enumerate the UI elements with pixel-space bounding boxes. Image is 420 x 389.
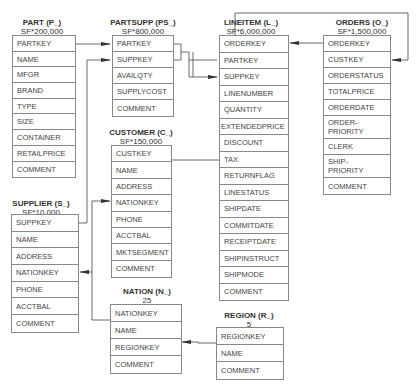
field-row: ORDERKEY (324, 36, 390, 52)
field-row: CUSTKEY (324, 52, 390, 68)
field-row: NAME (111, 322, 181, 339)
field-row: ORDERDATE (324, 100, 390, 116)
field-row: SHIPMODE (220, 267, 288, 284)
field-row: PARTKEY (220, 53, 288, 70)
table-title: REGION (R_) (224, 311, 273, 320)
field-row: ACCTBAL (112, 228, 171, 244)
field-row: RETURNFLAG (220, 168, 288, 185)
field-row: ORDERSTATUS (324, 68, 390, 84)
field-row: NAME (217, 345, 283, 362)
table-lineitem-fields: ORDERKEY PARTKEY SUPPKEY LINENUMBER QUAN… (219, 35, 289, 301)
field-row: ADDRESS (12, 248, 78, 265)
field-row: COMMENT (12, 315, 78, 332)
field-row: AVAILQTY (113, 68, 173, 84)
field-row: SHIP- PRIORITY (324, 155, 390, 178)
table-part-header: PART (P_) SF*200,000 (10, 18, 74, 36)
field-row: CONTAINER (13, 130, 75, 146)
table-title: LINEITEM (L_) (224, 18, 278, 27)
field-row: QUANTITY (220, 102, 288, 119)
field-row: ACCTBAL (12, 298, 78, 315)
field-row: PARTKEY (113, 36, 173, 52)
field-row: NAME (13, 52, 75, 68)
field-row: LINENUMBER (220, 86, 288, 103)
table-title: ORDERS (O_) (336, 18, 388, 27)
table-lineitem-header: LINEITEM (L_) SF*6,000,000 (215, 18, 287, 36)
field-row: PARTKEY (13, 36, 75, 52)
field-row: MKTSEGMENT (112, 244, 171, 260)
field-row: PHONE (112, 212, 171, 228)
field-row: NATIONKEY (111, 305, 181, 322)
field-row: NAME (112, 162, 171, 178)
field-row: SUPPKEY (113, 52, 173, 68)
field-row: TAX (220, 152, 288, 169)
field-row: RETAILPRICE (13, 146, 75, 162)
field-row: COMMENT (220, 284, 288, 301)
table-nation-header: NATION (N_) 25 (114, 287, 180, 305)
table-region-fields: REGIONKEY NAME COMMENT (216, 327, 284, 380)
field-row: SUPPLYCOST (113, 84, 173, 100)
table-nation-fields: NATIONKEY NAME REGIONKEY COMMENT (110, 304, 182, 374)
field-row: RECEIPTDATE (220, 234, 288, 251)
field-row: SIZE (13, 114, 75, 130)
field-row: EXTENDEDPRICE (220, 119, 288, 136)
table-title: NATION (N_) (123, 287, 171, 296)
field-row: PHONE (12, 282, 78, 299)
field-row: DISCOUNT (220, 135, 288, 152)
field-row: COMMENT (217, 362, 283, 379)
field-row: CLERK (324, 139, 390, 155)
field-row: ORDERKEY (220, 36, 288, 53)
table-part-fields: PARTKEY NAME MFGR BRAND TYPE SIZE CONTAI… (12, 35, 76, 178)
table-title: PARTSUPP (PS_) (110, 18, 176, 27)
field-row: TYPE (13, 99, 75, 115)
table-title: PART (P_) (23, 18, 62, 27)
field-row: COMMITDATE (220, 218, 288, 235)
field-row: NATIONKEY (12, 265, 78, 282)
table-title: CUSTOMER (C_) (109, 128, 172, 137)
field-row: SUPPKEY (220, 69, 288, 86)
table-title: SUPPLIER (S_) (12, 199, 69, 208)
table-partsupp-header: PARTSUPP (PS_) SF*800,000 (110, 18, 176, 36)
field-row: CUSTKEY (112, 146, 171, 162)
field-row: BRAND (13, 83, 75, 99)
field-row: NATIONKEY (112, 195, 171, 211)
field-row: REGIONKEY (217, 328, 283, 345)
field-row: LINESTATUS (220, 185, 288, 202)
table-orders-header: ORDERS (O_) SF*1,500,000 (326, 18, 398, 36)
field-row: REGIONKEY (111, 339, 181, 356)
field-row: COMMENT (111, 356, 181, 373)
field-row: COMMENT (13, 162, 75, 178)
field-row: NAME (12, 232, 78, 249)
table-orders-fields: ORDERKEY CUSTKEY ORDERSTATUS TOTALPRICE … (323, 35, 391, 195)
table-partsupp-fields: PARTKEY SUPPKEY AVAILQTY SUPPLYCOST COMM… (112, 35, 174, 117)
field-row: ADDRESS (112, 179, 171, 195)
table-customer-fields: CUSTKEY NAME ADDRESS NATIONKEY PHONE ACC… (111, 145, 172, 278)
field-row: SHIPDATE (220, 201, 288, 218)
table-supplier-fields: SUPPKEY NAME ADDRESS NATIONKEY PHONE ACC… (11, 214, 79, 333)
field-row: COMMENT (113, 100, 173, 116)
field-row: TOTALPRICE (324, 84, 390, 100)
field-row: COMMENT (324, 178, 390, 194)
field-row: MFGR (13, 67, 75, 83)
field-row: ORDER- PRIORITY (324, 116, 390, 139)
field-row: COMMENT (112, 261, 171, 277)
field-row: SUPPKEY (12, 215, 78, 232)
field-row: SHIPINSTRUCT (220, 251, 288, 268)
table-customer-header: CUSTOMER (C_) SF*150,000 (108, 128, 174, 146)
